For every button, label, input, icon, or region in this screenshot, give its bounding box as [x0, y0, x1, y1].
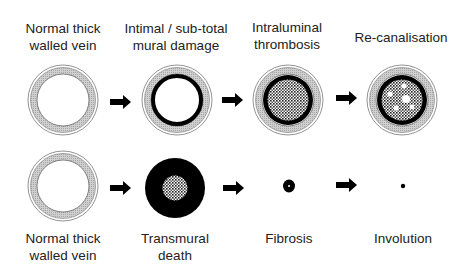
- stage-label: Normal thick walled vein: [25, 230, 100, 264]
- stage-label: Transmural death: [141, 230, 209, 264]
- involution-icon: [401, 184, 405, 188]
- stage-label: Normal thick walled vein: [25, 20, 100, 54]
- arrow-icon: [223, 181, 244, 195]
- label-line: Intimal / sub-total: [125, 20, 228, 37]
- fibrosis-icon: [283, 180, 295, 193]
- label-line: Re-canalisation: [354, 29, 447, 46]
- label-line: Involution: [374, 230, 432, 247]
- transmural-death-icon: [145, 158, 205, 218]
- arrow-icon: [110, 181, 131, 195]
- stage-label: Fibrosis: [265, 230, 312, 247]
- label-line: Intraluminal: [252, 19, 322, 36]
- label-line: walled vein: [25, 37, 100, 54]
- arrow-icon: [336, 178, 357, 192]
- label-line: thrombosis: [252, 36, 322, 53]
- label-line: Normal thick: [25, 230, 100, 247]
- stage-label: Intraluminal thrombosis: [252, 19, 322, 53]
- arrow-icon: [110, 95, 131, 109]
- stage-label: Involution: [374, 230, 432, 247]
- label-line: Fibrosis: [265, 230, 312, 247]
- label-line: Transmural: [141, 230, 209, 247]
- normal-vein-icon: [28, 151, 98, 221]
- normal-vein-icon: [28, 65, 98, 135]
- recanalisation-icon: [367, 65, 437, 135]
- stage-label: Intimal / sub-total mural damage: [125, 20, 228, 54]
- thrombosis-icon: [253, 65, 323, 135]
- label-line: mural damage: [125, 37, 228, 54]
- intimal-damage-icon: [142, 65, 212, 135]
- arrow-icon: [222, 93, 243, 107]
- arrow-icon: [336, 91, 357, 105]
- label-line: death: [141, 247, 209, 264]
- stage-label: Re-canalisation: [354, 29, 447, 46]
- label-line: Normal thick: [25, 20, 100, 37]
- label-line: walled vein: [25, 247, 100, 264]
